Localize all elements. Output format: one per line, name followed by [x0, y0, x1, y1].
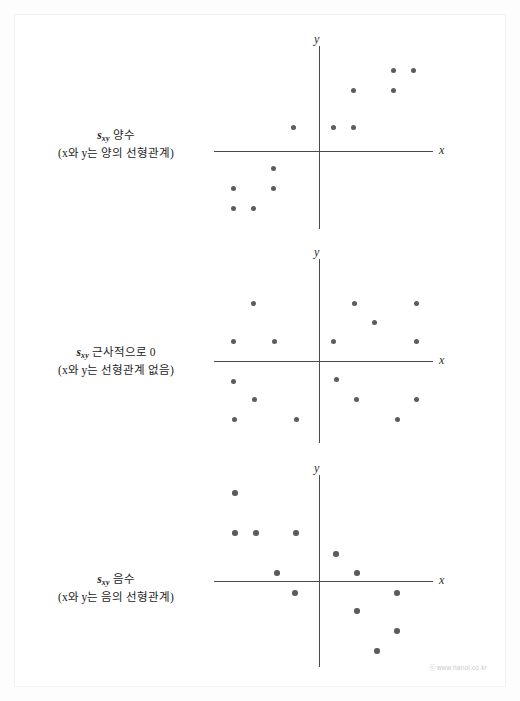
y-axis-negative	[319, 475, 320, 667]
scatter-point	[293, 530, 299, 536]
page-sheet: sxy 양수 (x와 y는 양의 선형관계) x y	[14, 14, 506, 687]
x-axis-zero	[214, 361, 433, 362]
label-positive-line1: sxy 양수	[11, 128, 221, 146]
y-axis-zero	[319, 259, 320, 443]
scatter-point	[354, 397, 359, 402]
label-negative-line1: sxy 음수	[11, 572, 221, 590]
panel-positive-covariance: sxy 양수 (x와 y는 양의 선형관계) x y	[15, 15, 507, 230]
scatter-point	[354, 570, 360, 576]
label-negative: sxy 음수 (x와 y는 음의 선형관계)	[11, 572, 221, 605]
scatter-point	[352, 301, 357, 306]
label-positive-line1-text: 양수	[110, 129, 135, 141]
scatter-point	[231, 206, 236, 211]
scatter-point	[394, 590, 400, 596]
page-root: sxy 양수 (x와 y는 양의 선형관계) x y	[0, 0, 520, 701]
scatter-point	[232, 530, 238, 536]
scatter-point	[334, 377, 339, 382]
label-negative-line2: (x와 y는 음의 선형관계)	[11, 590, 221, 605]
scatter-point	[333, 551, 339, 557]
scatter-point	[251, 301, 256, 306]
scatter-point	[414, 397, 419, 402]
scatter-point	[272, 339, 277, 344]
x-axis-negative	[214, 581, 433, 582]
symbol-subscript-xy: xy	[102, 578, 110, 587]
scatter-point	[231, 379, 236, 384]
scatter-point	[374, 648, 380, 654]
y-axis-label-zero: y	[314, 245, 319, 260]
scatter-point	[252, 397, 257, 402]
scatter-point	[394, 628, 400, 634]
label-zero-line1-text: 근사적으로 0	[89, 346, 156, 358]
scatter-point	[331, 125, 336, 130]
scatter-point	[351, 125, 356, 130]
scatter-point	[292, 590, 298, 596]
label-zero-line2: (x와 y는 선형관계 없음)	[11, 363, 221, 378]
scatter-point	[253, 530, 259, 536]
scatter-point	[414, 339, 419, 344]
x-axis-label-positive: x	[439, 143, 444, 158]
y-axis-positive	[319, 46, 320, 229]
scatter-point	[231, 339, 236, 344]
scatter-point	[391, 88, 396, 93]
scatter-point	[391, 68, 396, 73]
scatter-point	[271, 186, 276, 191]
scatter-point	[231, 186, 236, 191]
scatter-point	[232, 490, 238, 496]
x-axis-label-zero: x	[439, 353, 444, 368]
y-axis-label-positive: y	[314, 32, 319, 47]
scatter-point	[354, 608, 360, 614]
scatter-point	[232, 417, 237, 422]
panel-zero-covariance: sxy 근사적으로 0 (x와 y는 선형관계 없음) x y	[15, 237, 507, 452]
symbol-subscript-xy: xy	[81, 351, 89, 360]
scatter-point	[351, 88, 356, 93]
label-positive: sxy 양수 (x와 y는 양의 선형관계)	[11, 128, 221, 161]
label-zero-line1: sxy 근사적으로 0	[11, 345, 221, 363]
scatter-point	[274, 570, 280, 576]
x-axis-label-negative: x	[439, 573, 444, 588]
watermark-text: ⓒwww.hanol.co.kr	[429, 662, 487, 672]
label-positive-line2: (x와 y는 양의 선형관계)	[11, 146, 221, 161]
scatter-point	[291, 125, 296, 130]
x-axis-positive	[214, 151, 433, 152]
symbol-subscript-xy: xy	[102, 134, 110, 143]
scatter-point	[395, 417, 400, 422]
scatter-point	[271, 166, 276, 171]
scatter-point	[372, 320, 377, 325]
y-axis-label-negative: y	[314, 461, 319, 476]
scatter-point	[411, 68, 416, 73]
scatter-point	[251, 206, 256, 211]
scatter-point	[294, 417, 299, 422]
panel-negative-covariance: sxy 음수 (x와 y는 음의 선형관계) x y	[15, 453, 507, 678]
scatter-point	[331, 339, 336, 344]
scatter-point	[414, 301, 419, 306]
label-zero: sxy 근사적으로 0 (x와 y는 선형관계 없음)	[11, 345, 221, 378]
label-negative-line1-text: 음수	[110, 573, 135, 585]
